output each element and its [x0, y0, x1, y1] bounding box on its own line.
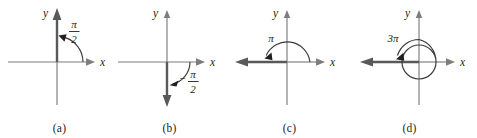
angle-label-d: 3π: [386, 32, 399, 44]
rotation-arc-arrowhead-a: [59, 34, 67, 42]
angles-in-standard-position-figure: x y π 2 (a) x y: [0, 0, 477, 138]
x-axis-arrowhead-a: [86, 58, 95, 66]
y-axis-label-c: y: [272, 7, 279, 20]
x-axis-label-c: x: [329, 56, 336, 68]
rotation-arc-arrowhead-b: [170, 81, 179, 87]
x-axis-label-d: x: [459, 56, 466, 68]
terminal-ray-arrowhead-c: [235, 58, 248, 67]
x-axis-arrowhead-d: [446, 58, 455, 66]
angle-label-denominator-a: 2: [71, 33, 77, 45]
panel-caption-a: (a): [0, 122, 119, 134]
terminal-ray-arrowhead-a: [53, 8, 62, 20]
angle-label-numerator-a: π: [71, 18, 77, 30]
rotation-spiral-arrowhead-d: [396, 53, 404, 61]
angle-label-a: π 2: [69, 18, 80, 45]
y-axis-label-d: y: [404, 7, 411, 20]
panel-caption-c: (c): [230, 122, 349, 134]
x-axis-label-a: x: [99, 56, 106, 68]
panel-b: x y − π 2 (b): [110, 0, 229, 138]
y-axis-arrowhead-b: [164, 10, 170, 18]
angle-label-b: − π 2: [179, 68, 199, 95]
y-axis-label-a: y: [42, 7, 49, 20]
panel-d: x y 3π (d): [350, 0, 469, 138]
rotation-arc-c: [266, 42, 310, 62]
y-axis-label-b: y: [152, 7, 159, 20]
y-axis-arrowhead-d: [416, 10, 422, 18]
x-axis-arrowhead-b: [196, 58, 205, 66]
panel-a: x y π 2 (a): [0, 0, 119, 138]
x-axis-arrowhead-c: [316, 58, 325, 66]
panel-c: x y π (c): [230, 0, 349, 138]
panel-caption-d: (d): [350, 122, 469, 134]
panel-caption-b: (b): [110, 122, 229, 134]
terminal-ray-arrowhead-b: [163, 95, 172, 107]
y-axis-arrowhead-c: [284, 10, 290, 18]
rotation-arc-arrowhead-c: [265, 53, 273, 61]
angle-label-denominator-b: 2: [190, 83, 196, 95]
angle-label-c: π: [268, 32, 274, 44]
angle-label-numerator-b: π: [190, 68, 196, 80]
terminal-ray-arrowhead-d: [360, 58, 373, 67]
x-axis-label-b: x: [209, 56, 216, 68]
angle-label-sign-b: −: [179, 72, 186, 84]
